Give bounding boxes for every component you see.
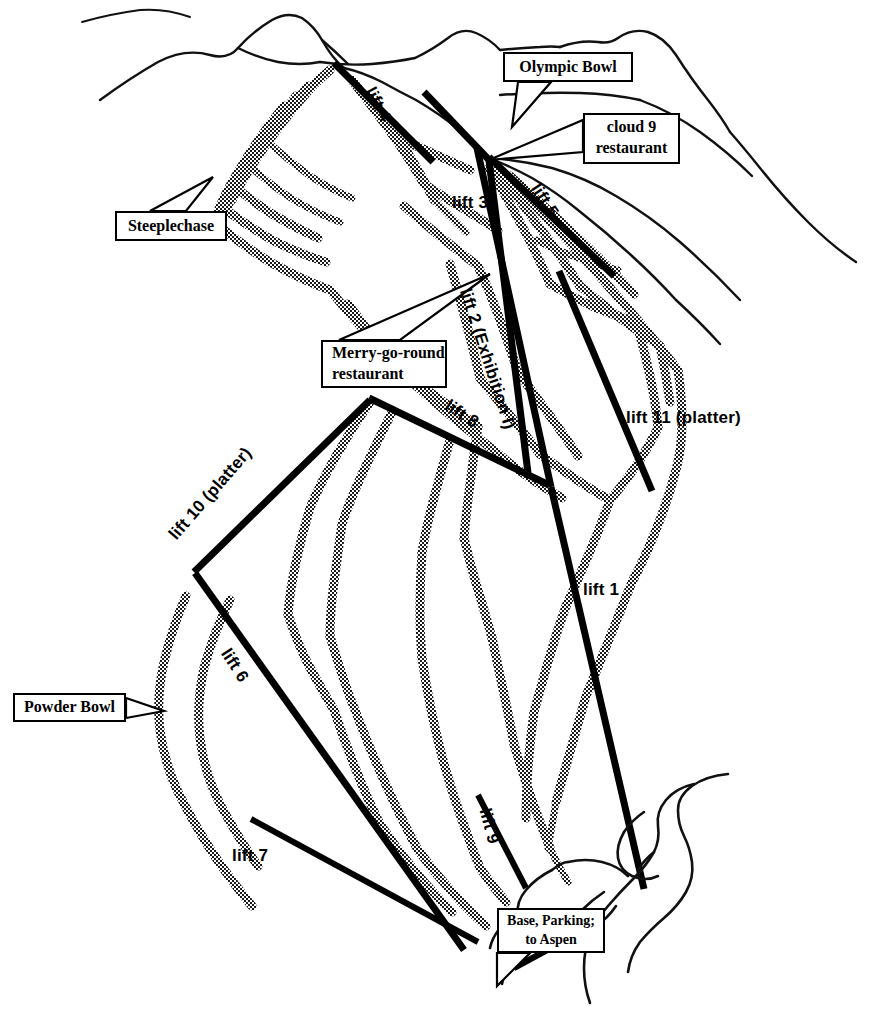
lift-1-line[interactable] xyxy=(551,487,644,889)
lift-label-lift-11: lift 11 (platter) xyxy=(626,408,741,428)
callout-cloud-9-line-2: restaurant xyxy=(596,138,668,159)
callout-base-parking[interactable]: Base, Parking; to Aspen xyxy=(497,908,605,953)
callout-cloud-9-restaurant[interactable]: cloud 9 restaurant xyxy=(583,113,680,164)
callout-merry-go-round-line-1: Merry-go-round xyxy=(332,343,445,364)
callout-olympic-bowl-line-1: Olympic Bowl xyxy=(519,57,616,77)
olympic-bowl-pointer xyxy=(512,82,551,127)
callout-cloud-9-line-1: cloud 9 xyxy=(607,117,656,138)
callout-olympic-bowl[interactable]: Olympic Bowl xyxy=(503,52,633,82)
callout-base-parking-line-1: Base, Parking; xyxy=(507,912,595,930)
callout-powder-bowl-line-1: Powder Bowl xyxy=(24,697,115,717)
lift-lines-group xyxy=(194,63,652,968)
callout-powder-bowl[interactable]: Powder Bowl xyxy=(13,693,126,722)
callout-steeplechase[interactable]: Steeplechase xyxy=(115,211,227,241)
callout-merry-go-round-restaurant[interactable]: Merry-go-round restaurant xyxy=(321,340,447,388)
callout-merry-go-round-line-2: restaurant xyxy=(332,364,404,385)
lift-label-lift-1: lift 1 xyxy=(583,580,619,600)
base-parking-pointer xyxy=(497,953,530,986)
lift-label-lift-3: lift 3 xyxy=(452,193,488,213)
map-canvas xyxy=(0,0,880,1009)
steeplechase-pointer xyxy=(150,177,213,211)
trail-network xyxy=(159,70,682,926)
callout-steeplechase-line-1: Steeplechase xyxy=(128,216,214,236)
callout-base-parking-line-2: to Aspen xyxy=(525,931,577,949)
cloud-9-pointer xyxy=(489,120,583,160)
ski-trail-map: lift 1 lift 2 (Exhibition I) lift 3 lift… xyxy=(0,0,880,1009)
lift-label-lift-7: lift 7 xyxy=(232,846,268,866)
